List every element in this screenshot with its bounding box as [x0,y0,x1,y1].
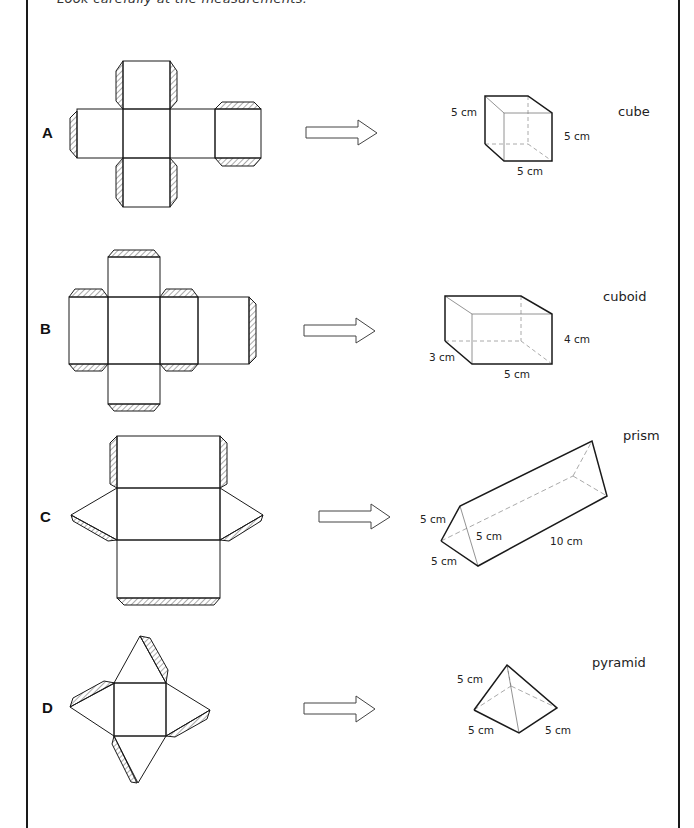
dimension-label: 5 cm [457,673,483,685]
arrow-right-icon [304,318,375,343]
dimension-label: 3 cm [429,351,455,363]
face [170,109,215,158]
face [198,297,249,364]
dimension-label: 10 cm [550,535,583,547]
glue-tab [117,598,220,605]
face [123,61,170,109]
row-label-a: A [42,124,53,141]
face [108,297,160,364]
face [123,109,170,158]
glue-tab [70,111,77,158]
row-label-c: C [40,508,51,525]
cube-net [70,61,261,207]
cuboid-net [69,250,256,411]
dimension-label: 5 cm [476,530,502,542]
dimension-label: 5 cm [564,130,590,142]
cuboid-3d [445,296,552,364]
arrow-right-icon [319,504,390,529]
arrow-right-icon [306,120,377,145]
glue-tab [112,736,137,783]
row-label-b: B [40,320,51,337]
cube-3d [485,96,552,161]
glue-tab [220,436,227,488]
shape-name-prism: prism [623,428,660,443]
face [117,540,220,598]
dimension-label: 5 cm [468,724,494,736]
face [77,109,123,158]
pyramid-3d [474,665,557,733]
glue-tab [170,61,177,109]
dimension-label: 5 cm [517,165,543,177]
dimension-label: 4 cm [564,333,590,345]
glue-tab [110,436,117,488]
face [108,364,160,404]
shape-name-cuboid: cuboid [603,289,646,304]
glue-tab [170,158,177,207]
glue-tab [215,158,261,166]
glue-tab [249,297,256,364]
triangular-prism-net [71,436,263,605]
face [160,297,198,364]
shape-name-pyramid: pyramid [592,655,646,670]
face [69,297,108,364]
face [117,488,220,540]
face [215,109,261,158]
glue-tab [116,158,123,207]
face [108,257,160,297]
dimension-label: 5 cm [545,724,571,736]
dimension-label: 5 cm [451,106,477,118]
glue-tab [116,61,123,109]
glue-tab [69,289,108,297]
glue-tab [108,250,160,257]
prism-3d [441,441,607,566]
row-label-d: D [42,699,53,716]
glue-tab [215,102,261,109]
face [114,683,166,736]
dimension-label: 5 cm [504,368,530,380]
dimension-label: 5 cm [420,513,446,525]
glue-tab [160,289,198,297]
glue-tab [108,404,160,411]
shape-name-cube: cube [618,104,650,119]
glue-tab [69,364,108,371]
glue-tab [160,364,198,371]
face [117,436,220,488]
dimension-label: 5 cm [431,555,457,567]
face [123,158,170,207]
square-pyramid-net [70,636,210,783]
arrow-right-icon [304,696,375,722]
